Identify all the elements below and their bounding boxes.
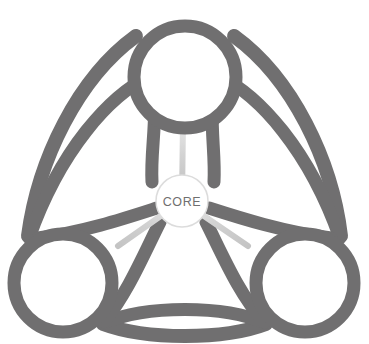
node-bottom-right[interactable] — [256, 234, 354, 332]
core-hub[interactable]: CORE — [156, 175, 208, 227]
outer-arc-bottom — [103, 324, 266, 336]
network-diagram: Hub and spoke triquetra diagram — [0, 0, 369, 344]
diagram-canvas: Hub and spoke triquetra diagram — [0, 0, 369, 344]
node-top[interactable] — [134, 26, 236, 128]
core-label: CORE — [163, 195, 202, 209]
inner-arc-lower — [104, 310, 265, 324]
node-bottom-left[interactable] — [14, 234, 112, 332]
